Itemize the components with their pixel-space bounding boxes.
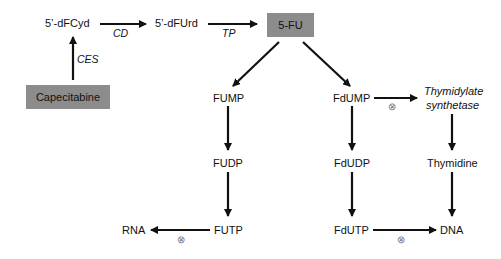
node-thymidylate-synthetase-line2: synthetase bbox=[426, 99, 479, 112]
node-fudp: FUDP bbox=[213, 157, 243, 170]
pathway-arrows bbox=[0, 0, 501, 259]
node-rna: RNA bbox=[122, 224, 145, 237]
node-thymidylate-synthetase-line1: Thymidylate bbox=[424, 85, 483, 98]
enzyme-cd-label: CD bbox=[113, 27, 128, 39]
node-5-dfurd: 5’-dFUrd bbox=[155, 17, 198, 30]
node-capecitabine-box: Capecitabine bbox=[26, 85, 110, 109]
enzyme-ces-label: CES bbox=[77, 53, 99, 65]
enzyme-tp-label: TP bbox=[222, 27, 235, 39]
node-fdutp: FdUTP bbox=[334, 224, 369, 237]
arrow-fu-fdump bbox=[303, 42, 350, 86]
node-fump: FUMP bbox=[213, 92, 244, 105]
inhibition-icon-rna: ⊗ bbox=[177, 234, 185, 245]
arrow-fu-fump bbox=[233, 42, 279, 86]
inhibition-icon-dna: ⊗ bbox=[397, 234, 405, 245]
node-fdudp: FdUDP bbox=[334, 157, 370, 170]
node-futp: FUTP bbox=[214, 224, 243, 237]
node-fdump: FdUMP bbox=[333, 92, 370, 105]
node-thymidine: Thymidine bbox=[427, 157, 478, 170]
inhibition-icon-ts: ⊗ bbox=[388, 101, 396, 112]
node-5-fu-box: 5-FU bbox=[267, 13, 314, 37]
node-5-dfcyd: 5’-dFCyd bbox=[45, 17, 90, 30]
node-dna: DNA bbox=[440, 224, 463, 237]
